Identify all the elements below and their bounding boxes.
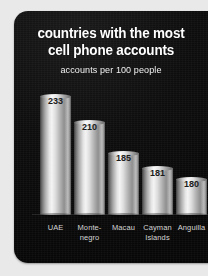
bar-value-label: 180 [176,179,207,189]
bar-value-label: 233 [40,96,71,106]
bar-cylinder[interactable] [40,96,71,215]
title-block: countries with the most cell phone accou… [14,25,208,76]
bar-category-label: Anguilla [171,223,208,233]
chart-subtitle: accounts per 100 people [19,64,203,76]
bar-cylinder[interactable] [74,122,105,215]
infographic-root: countries with the most cell phone accou… [0,0,208,276]
chart-panel: countries with the most cell phone accou… [14,11,208,263]
bar-value-label: 181 [142,168,173,178]
page-title: countries with the most cell phone accou… [21,25,201,58]
bar-value-label: 210 [74,122,105,132]
bar-value-label: 185 [108,153,139,163]
